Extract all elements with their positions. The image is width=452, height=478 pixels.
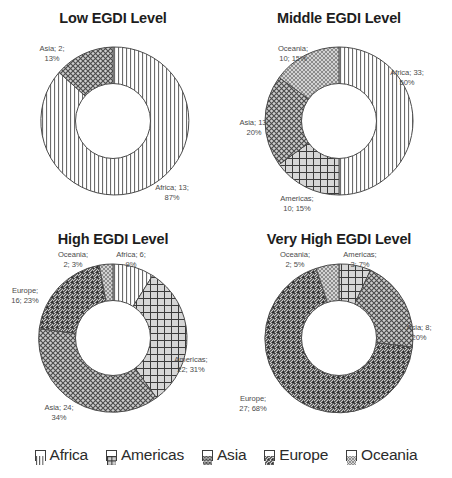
chart-title-very-high-egdi: Very High EGDI Level (226, 231, 452, 247)
legend-item-oceania[interactable]: Oceania (346, 446, 417, 464)
chart-title-high-egdi: High EGDI Level (0, 231, 226, 247)
chart-title-low-egdi: Low EGDI Level (0, 10, 226, 26)
figure-canvas: Low EGDI Level Asia; 2; 13% Africa; 13; … (0, 0, 452, 478)
slice-label-americas: Americas; 22; 31% (160, 355, 222, 374)
chart-legend: Africa Americas Asia Europe Oceania (0, 446, 452, 464)
slice-label-oceania: Oceania; 2; 5% (266, 250, 324, 269)
legend-label-oceania: Oceania (361, 446, 417, 464)
slice-label-asia: Asia; 24; 34% (30, 403, 88, 422)
donut-low-egdi (38, 46, 188, 196)
slice-label-africa: Africa; 13; 87% (140, 183, 204, 202)
legend-label-europe: Europe (279, 446, 328, 464)
slice-label-oceania: Oceania; 10; 15% (264, 44, 322, 63)
donut-hole (301, 83, 377, 159)
chart-panel-very-high-egdi: Very High EGDI Level Oceania; 2; 5% Amer… (226, 227, 452, 442)
legend-item-africa[interactable]: Africa (35, 446, 88, 464)
legend-label-americas: Americas (121, 446, 184, 464)
legend-swatch-europe (264, 450, 275, 461)
chart-title-middle-egdi: Middle EGDI Level (226, 10, 452, 26)
legend-item-asia[interactable]: Asia (202, 446, 246, 464)
legend-swatch-africa (35, 450, 46, 461)
slice-label-europe: Europe; 27; 68% (224, 394, 282, 413)
legend-swatch-oceania (346, 450, 357, 461)
legend-label-africa: Africa (50, 446, 88, 464)
donut-hole (301, 300, 377, 376)
slice-label-africa: Africa; 33; 50% (376, 68, 438, 87)
slice-label-europe: Europe; 16; 23% (0, 286, 52, 305)
legend-swatch-asia (202, 450, 213, 461)
chart-panel-middle-egdi: Middle EGDI Level Oceania; 10; 15% Afric… (226, 6, 452, 221)
slice-label-oceania: Oceania; 2; 3% (45, 250, 101, 269)
slice-label-asia: Asia; 8; 20% (391, 323, 447, 342)
slice-label-asia: Asia; 13; 20% (225, 118, 283, 137)
legend-swatch-americas (106, 450, 117, 461)
slice-label-americas: Americas; 3; 7% (329, 250, 391, 269)
legend-item-europe[interactable]: Europe (264, 446, 328, 464)
slice-label-asia: Asia; 2; 13% (24, 44, 80, 63)
chart-panel-low-egdi: Low EGDI Level Asia; 2; 13% Africa; 13; … (0, 6, 226, 221)
legend-label-asia: Asia (217, 446, 246, 464)
donut-high-egdi (38, 263, 188, 413)
slice-label-africa: Africa; 6; 9% (103, 250, 159, 269)
donut-hole (75, 83, 151, 159)
slice-label-americas: Americas; 10; 15% (266, 194, 328, 213)
donut-hole (75, 300, 151, 376)
chart-panel-high-egdi: High EGDI Level Oceania; 2; 3% (0, 227, 226, 442)
legend-item-americas[interactable]: Americas (106, 446, 184, 464)
